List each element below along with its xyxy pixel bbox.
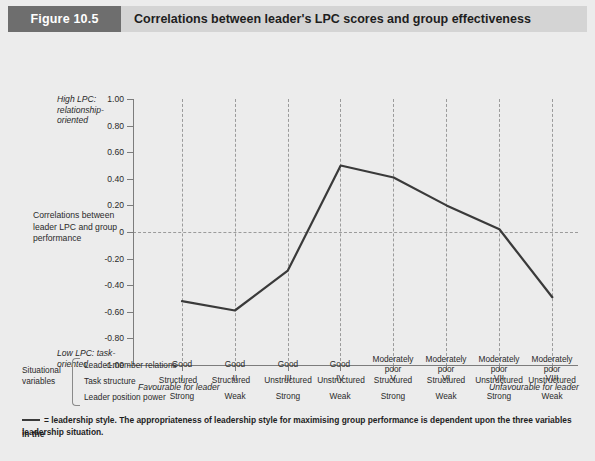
situational-variables-label: Situational variables: [22, 365, 70, 386]
table-cell: Moderately poor: [524, 355, 580, 374]
figure-caption: Correlations between leader's LPC scores…: [121, 6, 587, 32]
table-cell: Moderately poor: [365, 355, 421, 374]
table-cell: Weak: [207, 392, 263, 402]
legend-line-swatch: [22, 419, 40, 421]
figure-number-badge: Figure 10.5: [8, 6, 121, 32]
legend-footnote-line2: leadership situation.: [22, 427, 578, 437]
table-cell: Moderately poor: [418, 355, 474, 374]
table-cell: Structured: [150, 376, 206, 386]
table-cell: Strong: [365, 392, 421, 402]
brace-decoration: [72, 358, 80, 406]
table-cell: Weak: [524, 392, 580, 402]
table-cell: Moderately poor: [471, 355, 527, 374]
table-cell: Good: [312, 360, 368, 370]
table-cell: Strong: [154, 392, 210, 402]
figure-title-bar: Figure 10.5 Correlations between leader'…: [8, 6, 587, 32]
table-cell: Weak: [418, 392, 474, 402]
table-cell: Strong: [471, 392, 527, 402]
table-cell: Structured: [203, 376, 259, 386]
table-cell: Weak: [312, 392, 368, 402]
table-cell: Strong: [260, 392, 316, 402]
table-cell: Good: [260, 360, 316, 370]
situational-variables-table: Situational variables Leader-member rela…: [0, 357, 595, 409]
table-cell: Good: [154, 360, 210, 370]
table-cell: Unstructured: [517, 376, 587, 386]
table-cell: Good: [207, 360, 263, 370]
table-cell: Structured: [365, 376, 421, 386]
